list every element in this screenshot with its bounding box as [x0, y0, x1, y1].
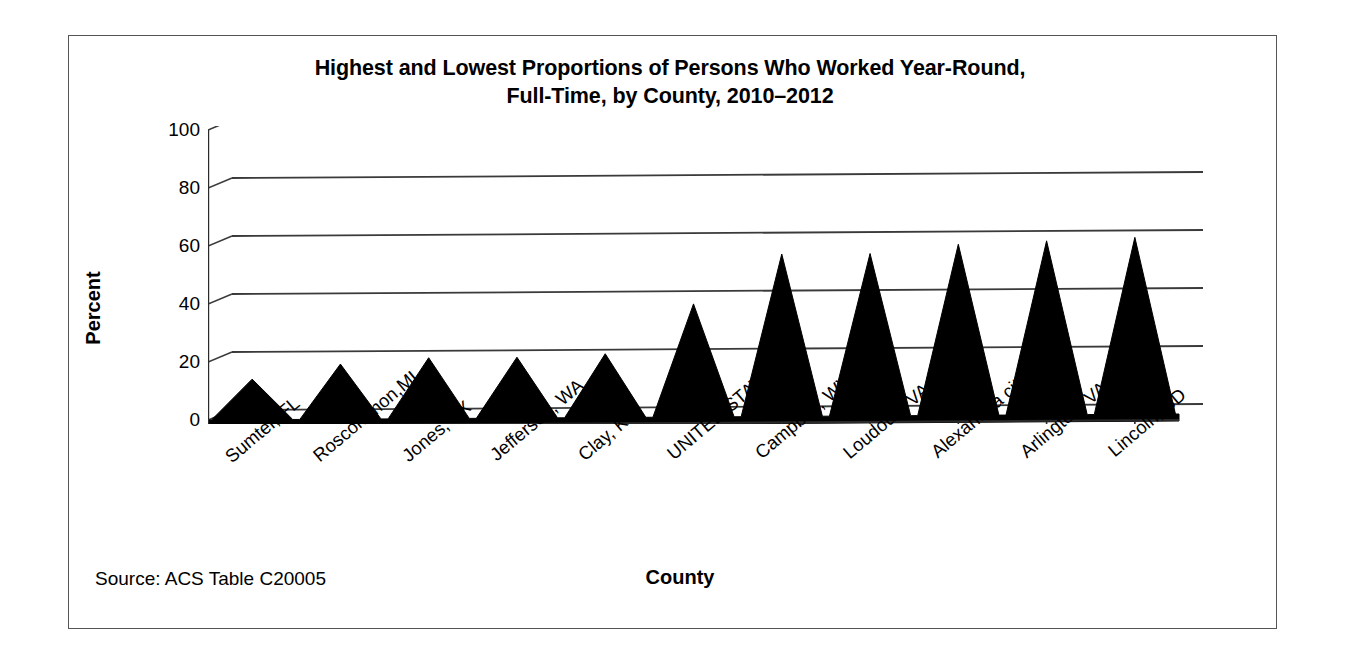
x-axis-category-label: Lincoln, SD	[1105, 386, 1189, 461]
source-note: Source: ACS Table C20005	[95, 568, 326, 590]
x-axis-category-label: Jefferson, WA	[487, 376, 587, 464]
x-axis-title: County	[320, 566, 1040, 589]
x-axis-category-label: Arlington, VA	[1017, 378, 1111, 461]
x-axis-category-label: Jones, TX	[399, 397, 474, 464]
x-axis-category-label: Clay, KY	[575, 404, 641, 464]
chart-figure: Highest and Lowest Proportions of Person…	[0, 0, 1345, 671]
x-axis-category-label: Sumter, FL	[222, 394, 303, 466]
x-axis-category-label: Loudoun, VA	[840, 380, 933, 462]
